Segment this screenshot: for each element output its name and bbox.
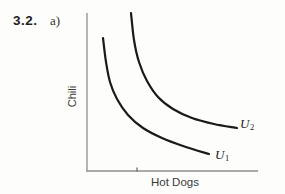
textbook-figure-page: 3.2. a) Chili Hot Dogs U2 U1: [0, 0, 285, 194]
y-axis-label: Chili: [66, 69, 79, 124]
indifference-curve-u2: [131, 13, 237, 128]
curve-label-u1-subscript: 1: [225, 153, 229, 163]
curve-label-u1-letter: U: [215, 147, 224, 162]
indifference-curve-plot: [0, 0, 285, 194]
curve-label-u1: U1: [215, 147, 229, 163]
curve-label-u2-letter: U: [240, 116, 249, 131]
curve-label-u2-subscript: 2: [250, 122, 254, 132]
x-axis-label: Hot Dogs: [130, 176, 220, 190]
curve-label-u2: U2: [240, 116, 254, 132]
